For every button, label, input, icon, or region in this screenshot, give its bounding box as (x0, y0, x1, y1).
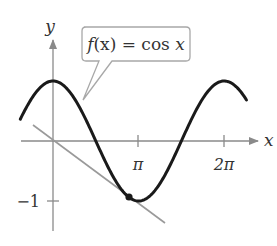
function-callout: f(x) = cos x (82, 27, 190, 100)
x-axis-label: x (264, 130, 274, 150)
tick-label-2pi: 2π (213, 155, 235, 174)
tick-label-pi: π (132, 155, 144, 174)
y-axis-label: y (44, 16, 55, 36)
tangent-point (125, 193, 132, 200)
tick-label-neg1: −1 (16, 192, 40, 211)
cosine-chart: π 2π −1 x y f(x) = cos x (0, 0, 277, 246)
callout-label: f(x) = cos x (85, 34, 185, 54)
